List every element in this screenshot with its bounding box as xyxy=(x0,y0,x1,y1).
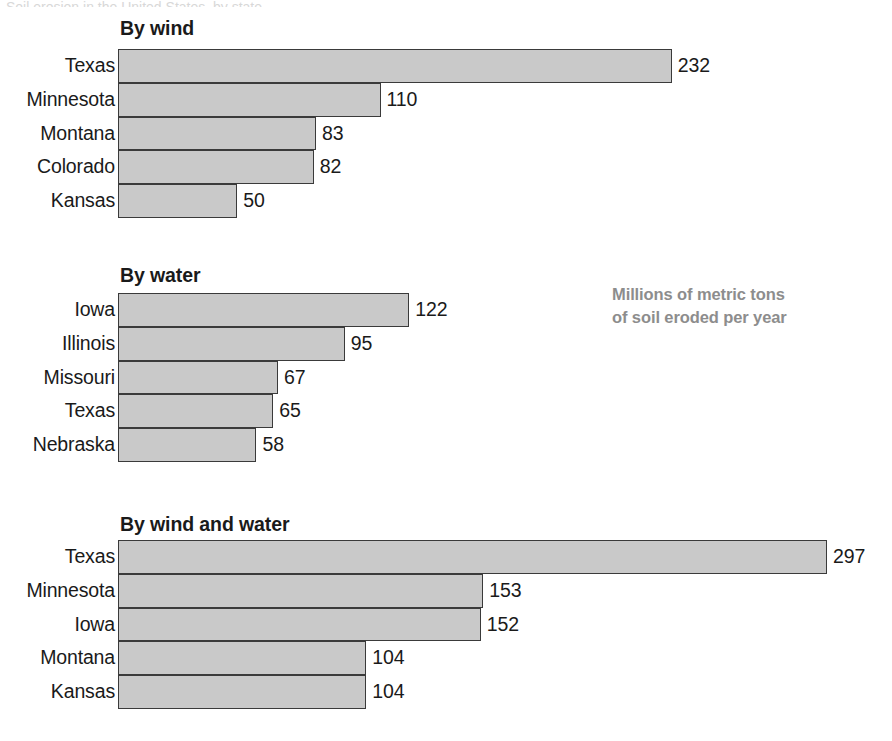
chart-panel-by-water: By water Iowa122Illinois95Missouri67Texa… xyxy=(0,244,892,484)
bar-row: Texas65 xyxy=(0,394,892,428)
bar xyxy=(118,608,481,642)
category-label: Kansas xyxy=(51,184,115,218)
category-label: Texas xyxy=(65,540,115,574)
bar-value-label: 153 xyxy=(489,574,521,608)
bar xyxy=(118,83,381,117)
bar-value-label: 110 xyxy=(387,83,418,117)
plot-area-by-wind-and-water: Texas297Minnesota153Iowa152Montana104Kan… xyxy=(0,540,892,709)
bar-value-label: 104 xyxy=(372,641,404,675)
bar xyxy=(118,49,672,83)
bar-value-label: 297 xyxy=(833,540,865,574)
category-label: Missouri xyxy=(44,361,115,395)
bar xyxy=(118,327,345,361)
bar xyxy=(118,574,483,608)
bar-value-label: 152 xyxy=(487,608,519,642)
bar xyxy=(118,394,273,428)
bar-row: Missouri67 xyxy=(0,361,892,395)
bar-row: Kansas104 xyxy=(0,675,892,709)
bar xyxy=(118,428,256,462)
category-label: Texas xyxy=(65,49,115,83)
category-label: Kansas xyxy=(51,675,115,709)
bar xyxy=(118,293,409,327)
bar-row: Kansas50 xyxy=(0,184,892,218)
category-label: Texas xyxy=(65,394,115,428)
bar-value-label: 65 xyxy=(279,394,301,428)
bar-value-label: 67 xyxy=(284,361,306,395)
category-label: Iowa xyxy=(74,293,115,327)
category-label: Montana xyxy=(40,641,115,675)
soil-erosion-bar-chart-figure: Soil erosion in the United States, by st… xyxy=(0,0,892,741)
bar-row: Minnesota110 xyxy=(0,83,892,117)
bar xyxy=(118,540,827,574)
bar-row: Montana83 xyxy=(0,117,892,151)
chart-title-by-wind-and-water: By wind and water xyxy=(120,513,290,536)
chart-panel-by-wind-and-water: By wind and water Texas297Minnesota153Io… xyxy=(0,491,892,741)
bar xyxy=(118,150,314,184)
units-caption: Millions of metric tons of soil eroded p… xyxy=(612,283,872,329)
category-label: Illinois xyxy=(62,327,115,361)
bar-row: Colorado82 xyxy=(0,150,892,184)
bar xyxy=(118,641,366,675)
bar-value-label: 82 xyxy=(320,150,342,184)
bar xyxy=(118,184,237,218)
chart-title-by-water: By water xyxy=(120,264,201,287)
category-label: Montana xyxy=(40,117,115,151)
bar xyxy=(118,361,278,395)
bar-row: Illinois95 xyxy=(0,327,892,361)
bar-value-label: 95 xyxy=(351,327,373,361)
chart-title-by-wind: By wind xyxy=(120,17,194,40)
category-label: Iowa xyxy=(74,608,115,642)
category-label: Nebraska xyxy=(33,428,115,462)
chart-panel-by-wind: By wind Texas232Minnesota110Montana83Col… xyxy=(0,0,892,240)
category-label: Colorado xyxy=(37,150,115,184)
bar-row: Iowa152 xyxy=(0,608,892,642)
bar-row: Texas232 xyxy=(0,49,892,83)
bar-value-label: 122 xyxy=(415,293,447,327)
plot-area-by-wind: Texas232Minnesota110Montana83Colorado82K… xyxy=(0,49,892,218)
bar xyxy=(118,675,366,709)
category-label: Minnesota xyxy=(26,83,115,117)
units-caption-line-2: of soil eroded per year xyxy=(612,306,872,329)
category-label: Minnesota xyxy=(26,574,115,608)
bar-row: Minnesota153 xyxy=(0,574,892,608)
bar-value-label: 50 xyxy=(243,184,265,218)
bar-row: Nebraska58 xyxy=(0,428,892,462)
bar-row: Montana104 xyxy=(0,641,892,675)
bar xyxy=(118,117,316,151)
bar-row: Texas297 xyxy=(0,540,892,574)
bar-value-label: 104 xyxy=(372,675,404,709)
units-caption-line-1: Millions of metric tons xyxy=(612,283,872,306)
bar-value-label: 83 xyxy=(322,117,344,151)
bar-value-label: 232 xyxy=(678,49,710,83)
bar-value-label: 58 xyxy=(262,428,284,462)
